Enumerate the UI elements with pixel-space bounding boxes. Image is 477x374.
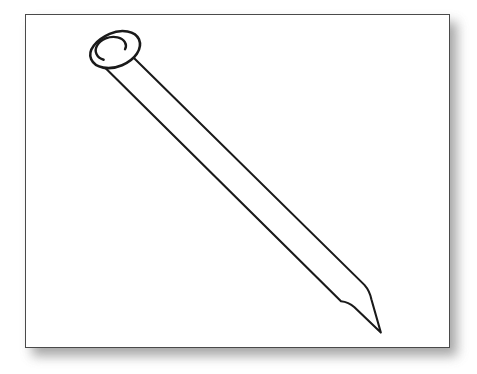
nail-illustration [26, 15, 449, 347]
image-canvas [0, 0, 477, 374]
nail-shaft-and-point [104, 49, 381, 333]
picture-frame [25, 14, 450, 348]
